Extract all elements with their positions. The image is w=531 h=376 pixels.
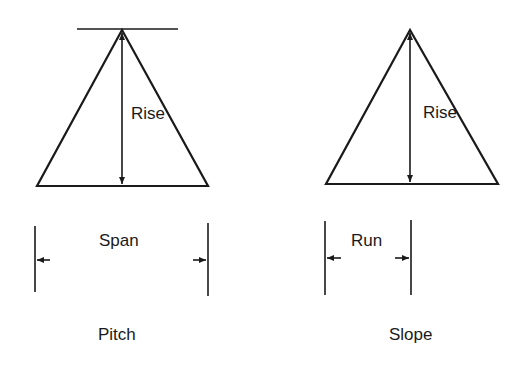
pitch-span-label: Span xyxy=(99,231,139,251)
slope-caption: Slope xyxy=(389,325,432,345)
slope-triangle xyxy=(326,30,498,184)
slope-diagram xyxy=(325,30,498,295)
pitch-diagram xyxy=(35,29,208,296)
pitch-rise-label: Rise xyxy=(131,104,165,124)
slope-run-label: Run xyxy=(351,231,382,251)
diagram-canvas xyxy=(0,0,531,376)
slope-rise-label: Rise xyxy=(423,103,457,123)
pitch-caption: Pitch xyxy=(98,325,136,345)
